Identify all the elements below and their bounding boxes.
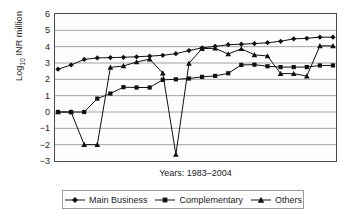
diamond-marker <box>330 35 335 40</box>
triangle-marker <box>173 152 179 157</box>
series-complementary <box>56 63 335 115</box>
diamond-marker <box>278 39 283 44</box>
square-marker <box>121 85 125 89</box>
square-marker <box>265 64 269 68</box>
plot-canvas <box>55 14 336 161</box>
square-marker <box>95 97 99 101</box>
diamond-marker <box>82 57 87 62</box>
square-marker <box>134 85 138 89</box>
diamond-legend-icon <box>64 195 86 205</box>
square-marker <box>108 91 112 95</box>
diamond-marker <box>121 55 126 60</box>
diamond-marker <box>291 36 296 41</box>
square-marker <box>318 63 322 67</box>
legend-item-others[interactable]: Others <box>250 195 302 205</box>
y-tick-label: 3 <box>36 59 50 68</box>
legend-label: Main Business <box>89 195 148 205</box>
series-line <box>58 65 333 112</box>
plot-area <box>54 13 337 162</box>
legend-item-complementary[interactable]: Complementary <box>154 195 243 205</box>
y-tick-label: −2 <box>36 140 50 149</box>
legend-item-main-business[interactable]: Main Business <box>64 195 148 205</box>
diamond-marker <box>304 36 309 41</box>
x-axis-label: Years: 1983–2004 <box>54 168 337 178</box>
square-marker <box>252 63 256 67</box>
triangle-marker <box>147 56 153 61</box>
y-axis-tick-labels: 6543210−1−2−3 <box>34 0 50 216</box>
y-tick-label: 1 <box>36 91 50 100</box>
diamond-marker <box>265 40 270 45</box>
y-tick-label: −3 <box>36 157 50 166</box>
chart-legend: Main BusinessComplementaryOthers <box>62 190 304 209</box>
diamond-marker <box>186 48 191 53</box>
y-tick-label: 5 <box>36 26 50 35</box>
diamond-marker <box>72 197 78 203</box>
series-line <box>58 37 333 69</box>
square-marker <box>292 65 296 69</box>
square-legend-icon <box>154 195 176 205</box>
y-tick-label: 2 <box>36 75 50 84</box>
triangle-legend-icon <box>250 195 272 205</box>
square-marker <box>331 63 335 67</box>
y-tick-label: 4 <box>36 42 50 51</box>
square-marker <box>239 63 243 67</box>
y-tick-label: −1 <box>36 124 50 133</box>
square-marker <box>82 110 86 114</box>
diamond-marker <box>160 53 165 58</box>
diamond-marker <box>134 54 139 59</box>
square-marker <box>279 65 283 69</box>
diamond-marker <box>95 55 100 60</box>
diamond-marker <box>55 67 60 72</box>
diamond-marker <box>252 41 257 46</box>
square-marker <box>200 75 204 79</box>
diamond-marker <box>173 51 178 56</box>
square-marker <box>213 74 217 78</box>
square-marker <box>305 65 309 69</box>
square-marker <box>148 85 152 89</box>
line-chart: Log10 INR million 6543210−1−2−3 Years: 1… <box>0 0 364 216</box>
y-tick-label: 6 <box>36 10 50 19</box>
square-marker <box>226 71 230 75</box>
diamond-marker <box>108 55 113 60</box>
square-marker <box>163 197 168 202</box>
diamond-marker <box>317 35 322 40</box>
legend-label: Others <box>275 195 302 205</box>
y-axis-label: Log10 INR million <box>14 0 26 102</box>
legend-label: Complementary <box>179 195 243 205</box>
square-marker <box>174 77 178 81</box>
y-tick-label: 0 <box>36 108 50 117</box>
